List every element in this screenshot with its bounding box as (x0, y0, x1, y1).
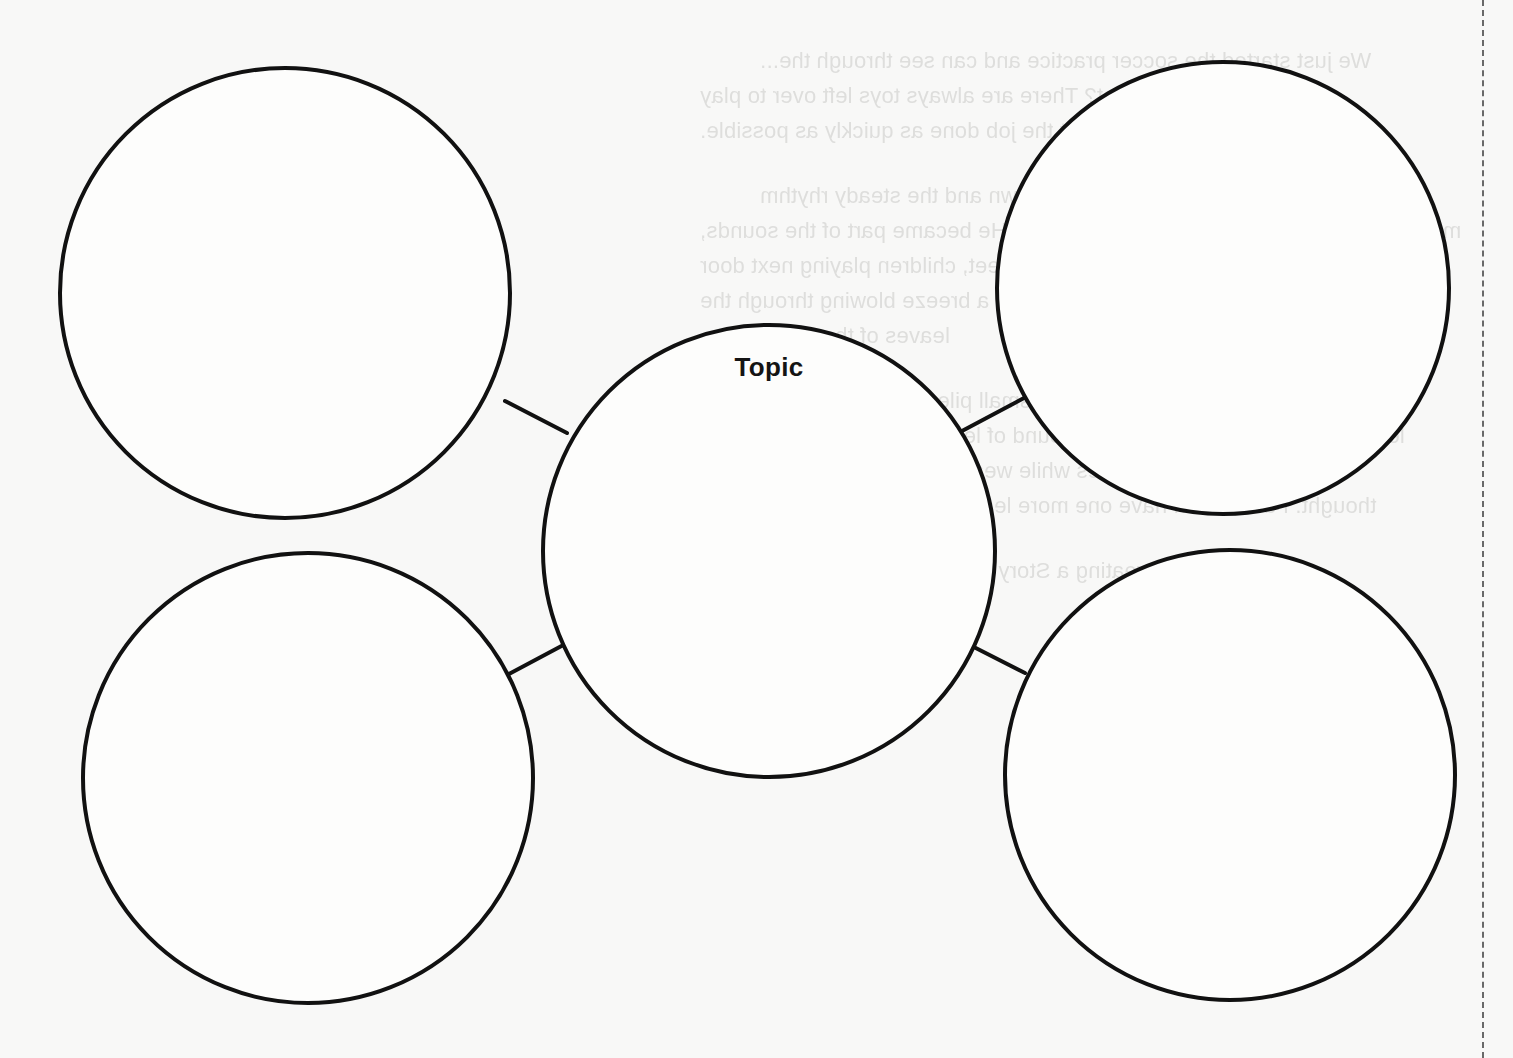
branch-circle-bottom-right[interactable] (1005, 550, 1455, 1000)
connector-bottom-left (505, 642, 569, 676)
connector-top-right (962, 398, 1024, 431)
topic-circle[interactable] (543, 325, 995, 777)
dashed-cut-line (1482, 0, 1484, 1058)
connector-top-left (505, 401, 567, 433)
branch-circle-top-right[interactable] (997, 62, 1449, 514)
topic-label: Topic (669, 352, 869, 383)
story-web-diagram (0, 0, 1513, 1058)
branch-circle-top-left[interactable] (60, 68, 510, 518)
branch-circle-bottom-left[interactable] (83, 553, 533, 1003)
worksheet-page: We just started the soccer practice and … (0, 0, 1513, 1058)
